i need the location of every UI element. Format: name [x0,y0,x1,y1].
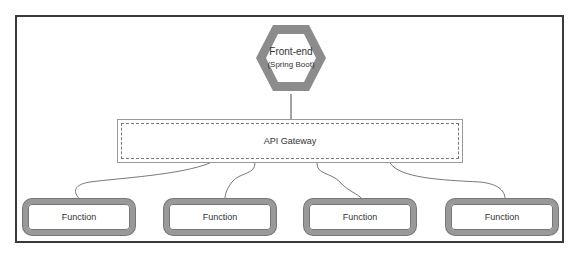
frontend-title: Front-end [269,45,312,59]
gateway-function-1-link [76,163,210,199]
gateway-function-4-link [390,163,505,199]
function-label: Function [203,212,238,222]
frontend-subtitle: (Spring Boot) [267,59,314,71]
function-node-2: Function [164,199,276,235]
frontend-node: Front-end (Spring Boot) [254,22,328,94]
function-label: Function [62,212,97,222]
gateway-function-3-link [317,163,362,199]
api-gateway-dashed-border: API Gateway [121,123,459,159]
function-node-1: Function [23,199,135,235]
function-node-4: Function [446,199,558,235]
api-gateway-node: API Gateway [117,119,463,163]
function-node-3: Function [304,199,416,235]
function-label: Function [343,212,378,222]
api-gateway-label: API Gateway [264,136,317,146]
gateway-function-2-link [225,163,255,199]
function-label: Function [485,212,520,222]
